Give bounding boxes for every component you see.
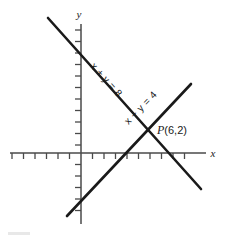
line-x-plus-y-equals-8 <box>48 18 201 189</box>
line-label-x-plus-y-equals-8: x + y = 8 <box>88 60 124 99</box>
y-axis-ticks <box>75 30 81 211</box>
point-label-p: P(6,2) <box>156 123 187 137</box>
figure-container: y x x + y = 8 x − y = 4 P(6,2) <box>0 0 226 240</box>
x-axis-ticks <box>12 153 185 159</box>
coordinate-graph: y x x + y = 8 x − y = 4 P(6,2) <box>0 0 226 240</box>
caption-fragment <box>8 232 30 235</box>
point-label-p-coords: (6,2) <box>164 124 187 136</box>
line-x-minus-y-equals-4 <box>67 84 191 216</box>
y-axis-label: y <box>76 8 82 20</box>
x-axis-label: x <box>210 147 216 159</box>
